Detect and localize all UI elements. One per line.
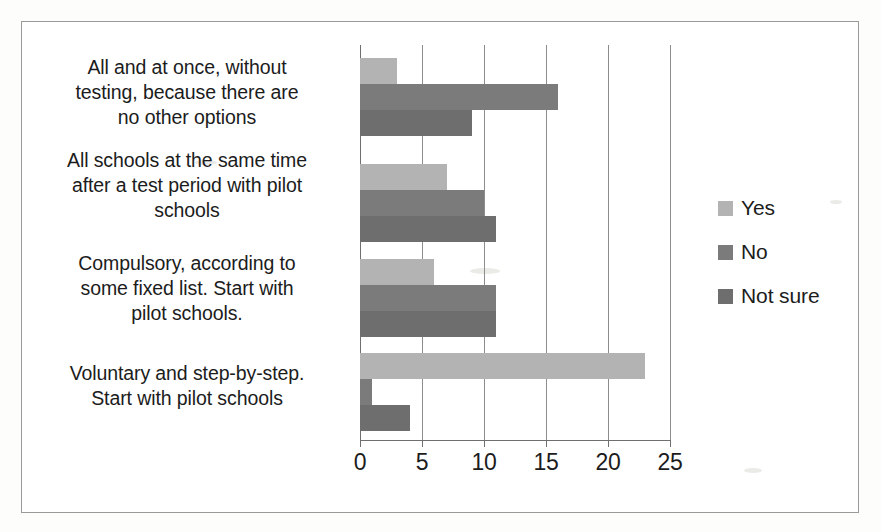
tick-mark-20 — [608, 440, 609, 447]
bar-no-cat-3 — [360, 285, 496, 311]
tick-label-15: 15 — [516, 449, 576, 476]
gridline-20 — [608, 45, 609, 440]
tick-mark-15 — [546, 440, 547, 447]
bar-yes-cat-2 — [360, 164, 447, 190]
tick-mark-10 — [484, 440, 485, 447]
bar-not-sure-cat-2 — [360, 216, 496, 242]
tick-mark-25 — [670, 440, 671, 447]
category-label-3: Compulsory, according to some fixed list… — [22, 251, 352, 326]
legend: YesNoNot sure — [718, 186, 820, 318]
category-label-1-line-1: All and at once, without — [22, 55, 352, 80]
bar-yes-cat-4 — [360, 353, 645, 379]
tick-label-5: 5 — [392, 449, 452, 476]
scan-speck — [744, 468, 762, 473]
bar-not-sure-cat-3 — [360, 311, 496, 337]
legend-item-not-sure[interactable]: Not sure — [718, 274, 820, 318]
legend-label: Not sure — [741, 284, 820, 308]
tick-mark-0 — [360, 440, 361, 447]
category-label-2-line-2: after a test period with pilot — [22, 173, 352, 198]
legend-item-no[interactable]: No — [718, 230, 820, 274]
category-labels: All and at once, without testing, becaus… — [22, 0, 352, 532]
category-label-2-line-3: schools — [22, 198, 352, 223]
category-label-2-line-1: All schools at the same time — [22, 148, 352, 173]
bar-not-sure-cat-1 — [360, 110, 472, 136]
plot-area — [360, 45, 670, 440]
bar-no-cat-4 — [360, 379, 372, 405]
category-label-1-line-2: testing, because there are — [22, 80, 352, 105]
legend-swatch-icon-yes — [718, 201, 733, 216]
bar-yes-cat-3 — [360, 259, 434, 285]
bar-no-cat-2 — [360, 190, 484, 216]
category-label-3-line-2: some fixed list. Start with — [22, 276, 352, 301]
x-axis-line — [360, 440, 671, 441]
category-label-4-line-2: Start with pilot schools — [22, 386, 352, 411]
category-label-4-line-1: Voluntary and step-by-step. — [22, 361, 352, 386]
bar-not-sure-cat-4 — [360, 405, 410, 431]
tick-label-20: 20 — [578, 449, 638, 476]
legend-swatch-icon-no — [718, 245, 733, 260]
legend-label: No — [741, 240, 768, 264]
tick-mark-5 — [422, 440, 423, 447]
category-label-3-line-1: Compulsory, according to — [22, 251, 352, 276]
gridline-25 — [670, 45, 671, 440]
tick-label-0: 0 — [330, 449, 390, 476]
legend-item-yes[interactable]: Yes — [718, 186, 820, 230]
bar-yes-cat-1 — [360, 58, 397, 84]
category-label-1: All and at once, without testing, becaus… — [22, 55, 352, 130]
tick-label-25: 25 — [640, 449, 700, 476]
chart-page: All and at once, without testing, becaus… — [0, 0, 881, 532]
category-label-3-line-3: pilot schools. — [22, 301, 352, 326]
category-label-4: Voluntary and step-by-step. Start with p… — [22, 361, 352, 411]
legend-label: Yes — [741, 196, 775, 220]
bar-no-cat-1 — [360, 84, 558, 110]
category-label-1-line-3: no other options — [22, 105, 352, 130]
tick-label-10: 10 — [454, 449, 514, 476]
legend-swatch-icon-not-sure — [718, 289, 733, 304]
scan-speck — [830, 200, 842, 204]
category-label-2: All schools at the same time after a tes… — [22, 148, 352, 223]
